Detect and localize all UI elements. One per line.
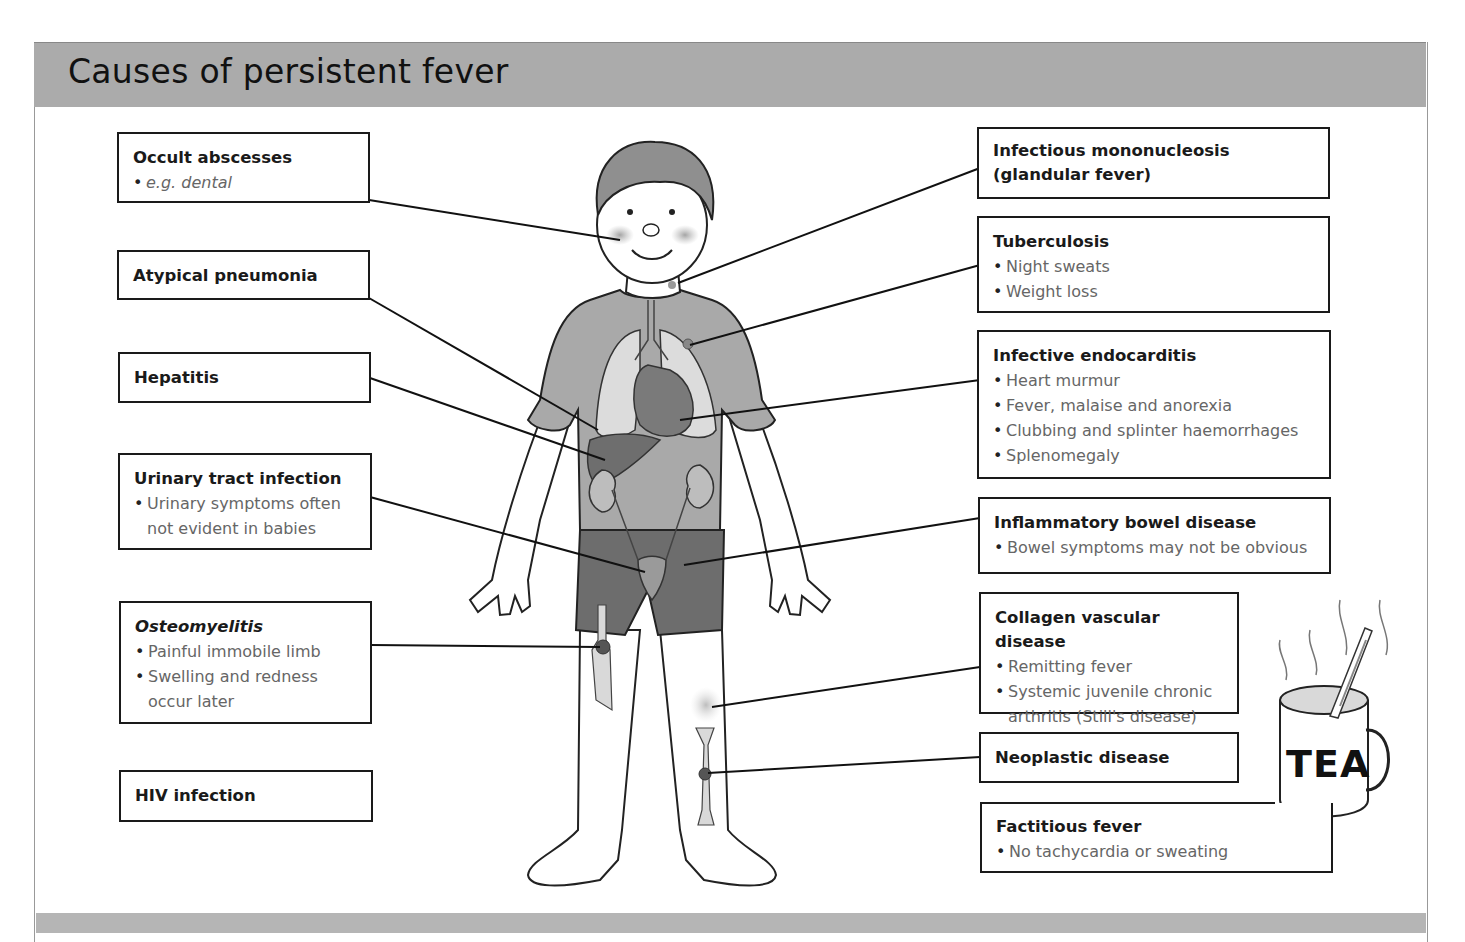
cause-bullet: Systemic juvenile chronic arthritis (Sti…: [995, 679, 1223, 729]
cause-hiv-infection: HIV infection: [119, 770, 373, 822]
cause-collagen-vascular-disease: Collagen vascular disease Remitting feve…: [979, 592, 1239, 714]
nose: [643, 224, 659, 236]
cause-bullet: Bowel symptoms may not be obvious: [994, 535, 1315, 560]
cause-bullet: Urinary symptoms often not evident in ba…: [134, 491, 356, 541]
cause-title: Urinary tract infection: [134, 467, 356, 491]
cause-title: Collagen vascular disease: [995, 606, 1223, 654]
mug-label: TEA: [1286, 742, 1370, 786]
cause-neoplastic-disease: Neoplastic disease: [979, 732, 1239, 783]
cheek-right: [671, 225, 699, 245]
tumour-lesion: [699, 768, 711, 780]
cause-bullet: No tachycardia or sweating: [996, 839, 1317, 864]
cause-urinary-tract-infection: Urinary tract infection Urinary symptoms…: [118, 453, 372, 550]
cause-title: Tuberculosis: [993, 230, 1314, 254]
cause-title: Infective endocarditis: [993, 344, 1315, 368]
cause-title: Osteomyelitis: [135, 615, 356, 639]
cause-bullet: Swelling and redness occur later: [135, 664, 356, 714]
eye-left: [627, 209, 633, 215]
legs: [528, 630, 776, 885]
cause-bullet: Weight loss: [993, 279, 1314, 304]
cause-title: Hepatitis: [134, 366, 355, 390]
neck-gland: [668, 281, 676, 289]
cause-bullet: Night sweats: [993, 254, 1314, 279]
cause-osteomyelitis: Osteomyelitis Painful immobile limb Swel…: [119, 601, 372, 724]
cause-inflammatory-bowel-disease: Inflammatory bowel disease Bowel symptom…: [978, 497, 1331, 574]
cause-bullet: Painful immobile limb: [135, 639, 356, 664]
cause-factitious-fever: Factitious fever No tachycardia or sweat…: [980, 803, 1333, 873]
cause-title: Atypical pneumonia: [133, 264, 354, 288]
cause-bullet: Splenomegaly: [993, 443, 1315, 468]
cause-atypical-pneumonia: Atypical pneumonia: [117, 250, 370, 300]
cheek-left: [606, 225, 634, 245]
cause-bullet: Clubbing and splinter haemorrhages: [993, 418, 1315, 443]
cause-infective-endocarditis: Infective endocarditis Heart murmur Feve…: [977, 330, 1331, 479]
cause-title: Inflammatory bowel disease: [994, 511, 1315, 535]
cause-infectious-mononucleosis: Infectious mononucleosis (glandular feve…: [977, 127, 1330, 199]
cause-bullet: Fever, malaise and anorexia: [993, 393, 1315, 418]
cause-title: Infectious mononucleosis (glandular feve…: [993, 139, 1314, 187]
cause-tuberculosis: Tuberculosis Night sweats Weight loss: [977, 216, 1330, 313]
factitious-box-top-border: [980, 802, 1275, 804]
cause-title: HIV infection: [135, 784, 357, 808]
knee-swelling: [690, 687, 722, 723]
eye-right: [669, 209, 675, 215]
cause-hepatitis: Hepatitis: [118, 352, 371, 403]
cause-title: Neoplastic disease: [995, 746, 1223, 770]
cause-title: Occult abscesses: [133, 146, 354, 170]
cause-bullet: e.g. dental: [133, 170, 354, 195]
cause-bullet: Heart murmur: [993, 368, 1315, 393]
cause-bullet: Remitting fever: [995, 654, 1223, 679]
cause-title: Factitious fever: [996, 815, 1317, 839]
cause-occult-abscesses: Occult abscesses e.g. dental: [117, 132, 370, 203]
